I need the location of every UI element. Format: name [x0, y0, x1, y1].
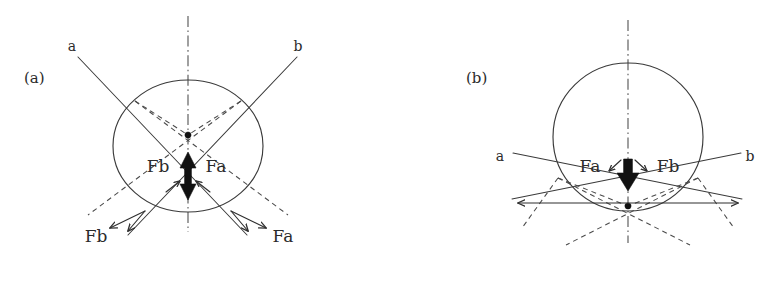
force-label-fa-center: Fa: [206, 156, 227, 176]
resultant-arrow-down: [617, 159, 639, 191]
figure-root: (a) a b Fb Fa Fb Fa: [0, 0, 769, 282]
panel-tag-b: (b): [466, 69, 487, 87]
panel-a: (a) a b Fb Fa Fb Fa: [24, 16, 303, 246]
outer-force-arrow-fb-down: [128, 211, 145, 231]
force-label-fb-outer: Fb: [85, 226, 108, 246]
force-label-fa-outer: Fa: [273, 226, 294, 246]
focus-dashed-right: [628, 178, 698, 206]
force-label-fb-center: Fb: [657, 156, 680, 176]
small-arrow-left-inward: [166, 181, 180, 192]
ray-label-a: a: [496, 148, 504, 164]
small-arrow-right-outward: [635, 160, 647, 171]
outer-force-arrow-fb-up: [110, 211, 145, 228]
focus-dashed-right: [188, 101, 241, 135]
ray-label-a: a: [68, 38, 76, 54]
panel-tag-a: (a): [24, 69, 45, 87]
small-arrow-left-outward: [609, 160, 621, 171]
focus-dot: [625, 203, 631, 209]
force-label-fa-center: Fa: [580, 156, 601, 176]
construction-line-a: [558, 178, 690, 245]
figure-canvas: (a) a b Fb Fa Fb Fa: [0, 0, 769, 282]
construction-line-b: [566, 178, 698, 245]
resultant-arrow-vertical-double: [180, 152, 196, 200]
outer-force-arrow-fa-up: [231, 211, 266, 228]
panel-b: (b) a b Fa Fb: [466, 20, 755, 245]
ray-label-b: b: [746, 148, 755, 164]
force-label-fb-center: Fb: [147, 156, 170, 176]
focus-dashed-left: [135, 101, 188, 135]
focus-dot: [185, 132, 191, 138]
small-arrow-right-inward: [196, 181, 210, 192]
ray-label-b: b: [294, 38, 303, 54]
